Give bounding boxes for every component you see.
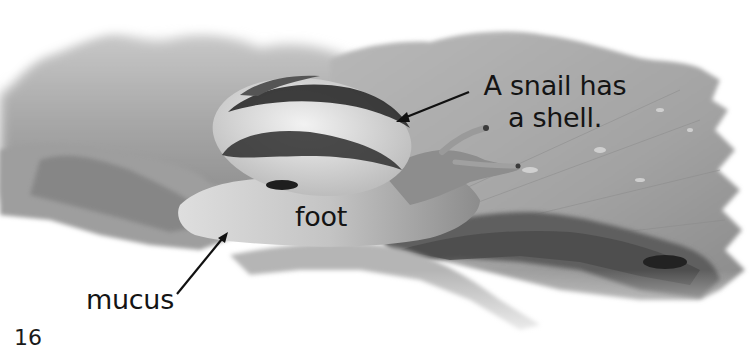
shell-label-line1: A snail has [470, 70, 640, 102]
mucus-label: mucus [86, 286, 174, 313]
book-page: A snail has a shell. foot mucus 16 [0, 0, 754, 352]
page-number: 16 [14, 325, 42, 350]
shell-label: A snail has a shell. [470, 70, 640, 134]
shell-label-line2: a shell. [470, 102, 640, 134]
foot-label: foot [295, 203, 347, 230]
